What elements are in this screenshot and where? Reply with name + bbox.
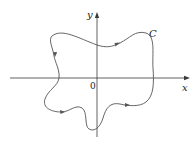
curve-arrow-icon-bottom-right [125,103,130,107]
x-axis-arrow-icon [184,76,190,80]
diagram-canvas: y x 0 C [0,0,196,143]
curve-c [44,32,153,130]
origin-label: 0 [90,81,96,91]
curve-label: C [149,28,157,39]
y-axis-arrow-icon [95,12,99,18]
y-axis-label: y [86,9,93,20]
curve-arrow-icon-top [115,43,121,47]
x-axis-label: x [182,82,188,93]
curve-arrow-icon-bottom-left [60,110,65,114]
